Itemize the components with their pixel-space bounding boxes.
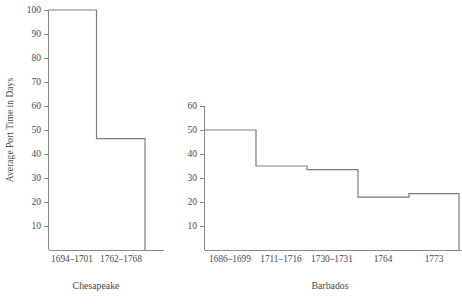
y-ticks-barbados [200, 107, 205, 227]
y-tick-label-100: 100 [27, 5, 42, 15]
y-tick-label-10: 10 [32, 221, 42, 231]
y-tick-label-60: 60 [188, 101, 198, 111]
y-tick-label-30: 30 [32, 173, 42, 183]
x-tick-labels-chesapeake: 1694–1701 1762–1768 [51, 254, 142, 264]
y-tick-label-50: 50 [32, 125, 42, 135]
y-tick-label-10: 10 [188, 221, 198, 231]
y-tick-label-50: 50 [188, 125, 198, 135]
x-tick-label-barbados-2: 1730–1731 [311, 254, 353, 264]
x-tick-label-barbados-4: 1773 [425, 254, 444, 264]
x-tick-label-chesapeake-0: 1694–1701 [51, 254, 93, 264]
x-tick-label-chesapeake-1: 1762–1768 [100, 254, 142, 264]
y-tick-label-20: 20 [188, 197, 198, 207]
x-tick-label-barbados-1: 1711–1716 [260, 254, 302, 264]
x-tick-label-barbados-0: 1686–1699 [209, 254, 251, 264]
bars-chesapeake [49, 10, 146, 250]
y-tick-label-30: 30 [188, 173, 198, 183]
figure-root: Average Port Time in Days 100 [0, 0, 462, 305]
y-tick-label-90: 90 [32, 29, 42, 39]
y-ticks-chesapeake [44, 11, 49, 227]
x-tick-label-barbados-3: 1764 [374, 254, 393, 264]
y-tick-label-60: 60 [32, 101, 42, 111]
panel-title-barbados: Barbados [311, 280, 348, 291]
y-tick-label-40: 40 [188, 149, 198, 159]
y-tick-labels-barbados: 60 50 40 30 20 10 [188, 101, 198, 231]
y-axis-title-chesapeake: Average Port Time in Days [4, 78, 15, 183]
x-tick-labels-barbados: 1686–1699 1711–1716 1730–1731 1764 1773 [209, 254, 444, 264]
panel-title-chesapeake: Chesapeake [73, 280, 120, 291]
y-tick-label-80: 80 [32, 53, 42, 63]
y-tick-labels-chesapeake: 100 90 80 70 60 50 40 30 20 10 [27, 5, 42, 231]
chart-svg: Average Port Time in Days 100 [0, 0, 462, 305]
panel-chesapeake: Average Port Time in Days 100 [4, 5, 164, 291]
y-tick-label-40: 40 [32, 149, 42, 159]
panel-barbados: 60 50 40 30 20 10 1686–1699 1711–1716 17… [188, 101, 462, 291]
bars-barbados [205, 130, 460, 250]
y-tick-label-70: 70 [32, 77, 42, 87]
y-tick-label-20: 20 [32, 197, 42, 207]
